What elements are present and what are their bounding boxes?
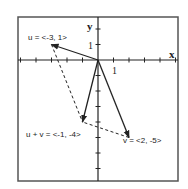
y-axis-label: y (87, 20, 93, 32)
y-unit-label: 1 (88, 40, 93, 51)
x-axis-label: x (169, 48, 175, 60)
vector-u-label: u = <-3, 1> (28, 33, 67, 42)
vector-v-label: v = <2, -5> (123, 136, 162, 145)
vector-diagram: x y 1 1 u = <-3, 1> u + v = <-1, -4> v =… (0, 0, 188, 189)
vector-sum-label: u + v = <-1, -4> (26, 130, 81, 139)
x-unit-label: 1 (112, 65, 117, 76)
